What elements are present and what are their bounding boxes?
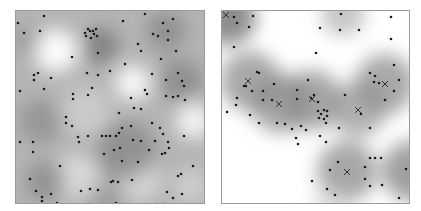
data-point [300, 125, 303, 128]
data-point [319, 135, 322, 138]
data-point [95, 28, 98, 31]
data-point [130, 97, 133, 100]
data-point [140, 108, 143, 111]
data-point [65, 122, 68, 125]
data-point [233, 46, 236, 49]
data-point [320, 113, 323, 116]
data-point [226, 111, 229, 114]
data-point [326, 188, 329, 191]
data-point [144, 13, 147, 16]
data-point [384, 99, 387, 102]
data-point [296, 89, 299, 92]
data-point [181, 193, 184, 196]
data-point [276, 122, 279, 125]
data-point [23, 32, 26, 35]
data-point [87, 94, 90, 97]
right-scatter-plot [222, 11, 409, 203]
data-point [165, 79, 168, 82]
data-point [160, 58, 163, 61]
data-point [177, 175, 180, 178]
data-point [326, 110, 329, 113]
data-point [405, 168, 408, 171]
data-point [29, 178, 32, 181]
data-point [398, 197, 401, 200]
data-point [358, 29, 361, 32]
data-point [32, 141, 35, 144]
data-point [180, 173, 183, 176]
data-point [245, 85, 248, 88]
data-point [374, 75, 377, 78]
data-point [380, 157, 383, 160]
data-point [140, 50, 143, 53]
data-point [360, 113, 363, 116]
data-point [89, 188, 92, 191]
data-point [159, 127, 162, 130]
data-point [315, 52, 318, 55]
data-point [130, 125, 133, 128]
data-point [369, 157, 372, 160]
data-point [17, 22, 20, 25]
data-point [71, 125, 74, 128]
data-point [89, 30, 92, 33]
data-point [192, 165, 195, 168]
data-point [236, 97, 239, 100]
data-point [168, 147, 171, 150]
data-point [338, 127, 341, 130]
data-point [96, 35, 99, 38]
data-point [262, 90, 265, 93]
data-point [78, 141, 81, 144]
data-point [364, 166, 367, 169]
data-point [33, 74, 36, 77]
data-point [177, 95, 180, 98]
data-point [248, 26, 251, 29]
data-point [41, 200, 44, 203]
data-point [109, 70, 112, 73]
data-point [121, 160, 124, 163]
data-point [235, 104, 238, 107]
data-point [113, 149, 116, 152]
data-point [340, 13, 343, 16]
data-point [133, 107, 136, 110]
data-point [369, 185, 372, 188]
data-point [118, 132, 121, 135]
data-point [144, 89, 147, 92]
data-point [374, 157, 377, 160]
data-point [233, 16, 236, 19]
data-point [151, 122, 154, 125]
data-point [325, 141, 328, 144]
data-point [164, 152, 167, 155]
data-point [390, 38, 393, 41]
data-point [252, 15, 255, 18]
data-point [37, 72, 40, 75]
data-point [317, 110, 320, 113]
data-point [132, 139, 135, 142]
data-point [184, 99, 187, 102]
data-point [90, 37, 93, 40]
data-point [86, 72, 89, 75]
data-point [161, 153, 164, 156]
data-point [43, 15, 46, 18]
data-point [249, 114, 252, 117]
data-point [65, 116, 68, 119]
data-point [162, 22, 165, 25]
data-point [91, 87, 94, 90]
data-point [154, 140, 157, 143]
data-point [119, 147, 122, 150]
data-point [313, 94, 316, 97]
data-point [390, 16, 393, 19]
data-point [165, 95, 168, 98]
data-point [181, 80, 184, 83]
data-point [93, 33, 96, 36]
data-point [319, 27, 322, 30]
data-point [35, 190, 38, 193]
data-point [307, 79, 310, 82]
data-point [162, 133, 165, 136]
data-point [325, 122, 328, 125]
data-point [172, 96, 175, 99]
data-point [258, 122, 261, 125]
data-point [326, 115, 329, 118]
data-point [262, 99, 265, 102]
data-point [84, 32, 87, 35]
data-point [291, 128, 294, 131]
data-point [318, 117, 321, 120]
